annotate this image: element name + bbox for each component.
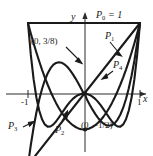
- curve-label-p1: P1: [105, 31, 114, 42]
- x-tick-label-neg-one: -1: [21, 98, 29, 107]
- plot-canvas: [0, 0, 153, 156]
- point-label-0-3-8: (0, 3/8): [31, 37, 58, 46]
- curve-label-p4: P4: [113, 60, 122, 71]
- y-axis-label: y: [71, 12, 75, 22]
- point-0-3-8: [83, 91, 87, 95]
- curve-label-p0-equation: = 1: [105, 9, 122, 20]
- curve-label-p0: P0 = 1: [96, 10, 122, 21]
- point-label-0-neg-1-2: (0, −1/2): [81, 121, 113, 130]
- arrow-line-point-high: [66, 47, 79, 60]
- curve-label-p2-sub: 2: [61, 129, 64, 136]
- arrow-head-point-high: [76, 58, 82, 63]
- curve-label-p1-sub: 1: [111, 35, 114, 42]
- x-tick-label-pos-one: 1: [137, 98, 142, 107]
- curve-label-p2: P2: [55, 125, 64, 136]
- curve-label-p4-sub: 4: [119, 64, 122, 71]
- axes: [6, 12, 146, 152]
- arrow-head-p4: [102, 74, 108, 79]
- curve-label-p3-sub: 3: [14, 125, 17, 132]
- y-axis-arrowhead: [82, 12, 87, 19]
- x-axis-label: x: [143, 94, 147, 104]
- legendre-polynomial-figure: y x -1 1 P0 = 1 P1 P4 P2 P3 (0, 3/8) (0,…: [0, 0, 153, 156]
- curve-label-p3: P3: [8, 121, 17, 132]
